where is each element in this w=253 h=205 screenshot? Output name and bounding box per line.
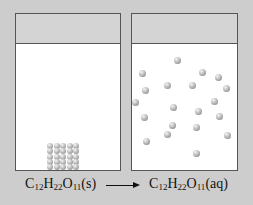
- sugar-molecule: [141, 114, 148, 121]
- beaker-top-band: [16, 14, 120, 44]
- sugar-molecule: [215, 74, 222, 81]
- sugar-molecule: [174, 57, 181, 64]
- sugar-molecule: [199, 69, 206, 76]
- sugar-molecule: [132, 99, 139, 106]
- sugar-molecule: [216, 113, 223, 120]
- sugar-molecule: [169, 122, 176, 129]
- beaker-top-band: [132, 14, 237, 44]
- sugar-molecule: [54, 164, 60, 170]
- sugar-molecule: [47, 164, 53, 170]
- dissolution-equation: C12H22O11(s) C12H22O11(aq): [0, 176, 253, 192]
- beaker-solid: [15, 13, 121, 171]
- sugar-molecule: [189, 82, 196, 89]
- sugar-molecule: [164, 131, 171, 138]
- sugar-molecule: [195, 108, 202, 115]
- sugar-molecule: [143, 138, 150, 145]
- sugar-molecule: [139, 70, 146, 77]
- reactant: C12H22O11(s): [25, 176, 96, 191]
- sugar-molecule: [193, 150, 200, 157]
- sugar-molecule: [73, 164, 79, 170]
- sugar-molecule: [170, 104, 177, 111]
- sugar-molecule: [211, 98, 218, 105]
- sugar-molecule: [193, 124, 200, 131]
- sugar-molecule: [164, 82, 171, 89]
- sugar-molecule: [60, 164, 66, 170]
- sugar-molecule: [142, 87, 149, 94]
- sugar-cube: [47, 143, 80, 170]
- product-state: (aq): [205, 176, 228, 191]
- right-arrow-icon: [106, 180, 140, 190]
- sugar-molecule: [67, 164, 73, 170]
- sugar-molecule: [223, 85, 230, 92]
- sugar-molecule: [224, 132, 231, 139]
- product: C12H22O11(aq): [149, 176, 228, 191]
- reactant-state: (s): [81, 176, 96, 191]
